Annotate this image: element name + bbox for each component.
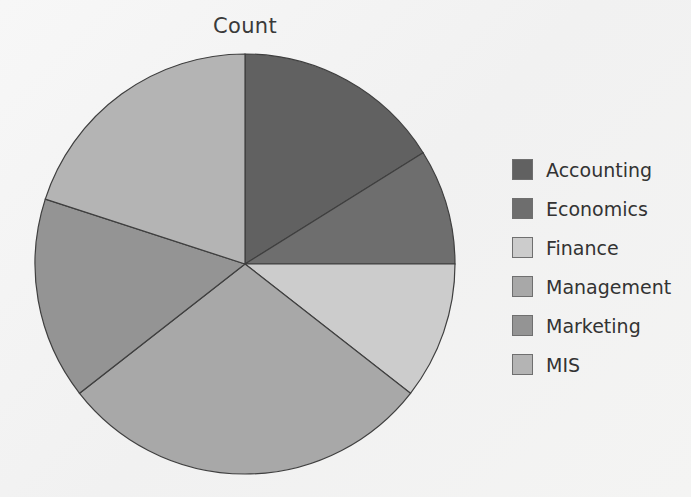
chart-legend: AccountingEconomicsFinanceManagementMark… <box>512 150 687 384</box>
legend-item-finance[interactable]: Finance <box>512 228 687 267</box>
pie-chart-figure: Count AccountingEconomicsFinanceManageme… <box>0 0 691 497</box>
legend-item-marketing[interactable]: Marketing <box>512 306 687 345</box>
legend-swatch-icon <box>512 315 533 336</box>
legend-item-label: Economics <box>546 198 648 220</box>
legend-item-accounting[interactable]: Accounting <box>512 150 687 189</box>
legend-item-economics[interactable]: Economics <box>512 189 687 228</box>
legend-item-label: MIS <box>546 354 580 376</box>
legend-item-management[interactable]: Management <box>512 267 687 306</box>
legend-item-label: Accounting <box>546 159 652 181</box>
legend-swatch-icon <box>512 237 533 258</box>
legend-swatch-icon <box>512 276 533 297</box>
legend-swatch-icon <box>512 354 533 375</box>
legend-item-label: Finance <box>546 237 619 259</box>
legend-swatch-icon <box>512 159 533 180</box>
legend-item-label: Management <box>546 276 671 298</box>
legend-item-label: Marketing <box>546 315 641 337</box>
legend-item-mis[interactable]: MIS <box>512 345 687 384</box>
legend-swatch-icon <box>512 198 533 219</box>
pie-slice-group <box>35 54 455 474</box>
